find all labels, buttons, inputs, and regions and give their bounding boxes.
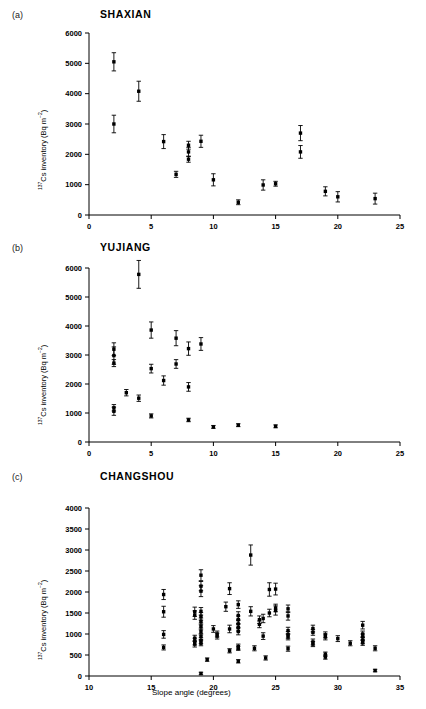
svg-text:10: 10: [209, 222, 217, 231]
svg-text:5: 5: [149, 222, 153, 231]
svg-text:4000: 4000: [65, 89, 82, 98]
svg-text:3000: 3000: [65, 546, 82, 555]
svg-text:3500: 3500: [65, 525, 82, 534]
panel-a-title: SHAXIAN: [100, 8, 151, 20]
svg-text:1000: 1000: [65, 409, 82, 418]
panel-b-title: YUJIANG: [100, 241, 151, 253]
panel-b: (b) YUJIANG 137Cs inventory (Bq m−2) 010…: [0, 235, 426, 470]
svg-text:15: 15: [271, 222, 279, 231]
svg-text:25: 25: [396, 449, 404, 458]
svg-text:0: 0: [87, 222, 91, 231]
panel-b-plot: 01000200030004000500060000510152025: [0, 235, 426, 470]
svg-text:4000: 4000: [65, 504, 82, 513]
svg-text:15: 15: [271, 449, 279, 458]
panel-a-y-axis-label: 137Cs inventory (Bq m−2): [38, 110, 48, 190]
svg-text:6000: 6000: [65, 264, 82, 273]
panel-a-plot: 01000200030004000500060000510152025: [0, 0, 426, 235]
panel-c-x-axis-label: Slope angle (degrees): [152, 688, 231, 697]
data-series: [112, 53, 378, 205]
svg-text:500: 500: [69, 651, 82, 660]
svg-text:30: 30: [334, 683, 342, 692]
svg-text:25: 25: [396, 222, 404, 231]
figure-root: (a) SHAXIAN 137Cs inventory (Bq m−2) 010…: [0, 0, 426, 709]
svg-text:0: 0: [87, 449, 91, 458]
svg-text:1000: 1000: [65, 630, 82, 639]
svg-text:2000: 2000: [65, 150, 82, 159]
svg-text:20: 20: [334, 449, 342, 458]
svg-text:2500: 2500: [65, 567, 82, 576]
svg-text:2000: 2000: [65, 588, 82, 597]
data-series: [161, 545, 377, 675]
panel-a-label: (a): [12, 10, 23, 20]
data-series: [112, 260, 278, 428]
panel-c: (c) CHANGSHOU 137Cs inventory (Bq m−2) S…: [0, 470, 426, 709]
svg-text:1000: 1000: [65, 180, 82, 189]
svg-text:3000: 3000: [65, 351, 82, 360]
panel-c-y-axis-label: 137Cs inventory (Bq m−2): [38, 580, 48, 660]
panel-b-label: (b): [12, 243, 23, 253]
svg-text:20: 20: [334, 222, 342, 231]
svg-text:1500: 1500: [65, 609, 82, 618]
svg-text:2000: 2000: [65, 380, 82, 389]
svg-text:5: 5: [149, 449, 153, 458]
svg-text:10: 10: [209, 449, 217, 458]
svg-text:6000: 6000: [65, 29, 82, 38]
svg-text:0: 0: [78, 438, 82, 447]
svg-text:4000: 4000: [65, 322, 82, 331]
svg-text:10: 10: [85, 683, 93, 692]
svg-text:0: 0: [78, 211, 82, 220]
panel-c-title: CHANGSHOU: [100, 470, 174, 482]
svg-text:0: 0: [78, 672, 82, 681]
svg-text:25: 25: [271, 683, 279, 692]
svg-text:5000: 5000: [65, 59, 82, 68]
svg-text:5000: 5000: [65, 293, 82, 302]
panel-b-y-axis-label: 137Cs inventory (Bq m−2): [38, 345, 48, 425]
svg-text:3000: 3000: [65, 120, 82, 129]
panel-c-label: (c): [12, 472, 23, 482]
panel-c-plot: 0500100015002000250030003500400010152025…: [0, 470, 426, 709]
panel-a: (a) SHAXIAN 137Cs inventory (Bq m−2) 010…: [0, 0, 426, 235]
svg-text:35: 35: [396, 683, 404, 692]
